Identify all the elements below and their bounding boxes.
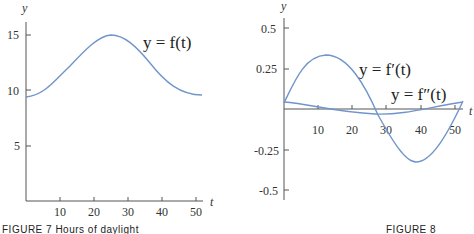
right-y-axis-label: y	[280, 0, 287, 13]
left-xtick-50: 50	[190, 205, 202, 219]
left-chart: y t 15 10 5 10 20 30 40 50 y = f(t) FIGU…	[2, 1, 214, 234]
curve-f-prime-label: y = f′(t)	[359, 60, 411, 79]
right-ytick-neg0.25: -0.25	[254, 144, 279, 158]
right-xtick-20: 20	[346, 123, 358, 137]
left-ytick-10: 10	[7, 84, 19, 98]
curve-f-label: y = f(t)	[143, 33, 191, 52]
right-ytick-neg0.5: -0.5	[259, 184, 278, 198]
figure-canvas: y t 15 10 5 10 20 30 40 50 y = f(t) FIGU…	[0, 0, 474, 234]
right-x-axis-label: t	[469, 104, 473, 118]
right-ytick-0.25: 0.25	[256, 62, 277, 76]
left-caption: FIGURE 7 Hours of daylight	[2, 224, 139, 234]
left-y-axis-label: y	[21, 1, 28, 15]
right-xtick-10: 10	[312, 123, 324, 137]
left-ytick-5: 5	[14, 139, 20, 153]
left-x-axis-label: t	[210, 195, 214, 209]
left-ytick-15: 15	[7, 28, 19, 42]
left-xtick-10: 10	[54, 205, 66, 219]
left-xtick-30: 30	[122, 205, 134, 219]
left-xtick-20: 20	[88, 205, 100, 219]
left-xtick-40: 40	[156, 205, 168, 219]
right-ytick-0.5: 0.5	[261, 22, 276, 36]
right-xtick-40: 40	[415, 123, 427, 137]
curve-f-double-prime-label: y = f″(t)	[391, 85, 446, 104]
right-caption: FIGURE 8	[386, 224, 436, 234]
right-chart: y t 0.5 0.25 -0.25 -0.5 10 20 30 40 50 y…	[254, 0, 473, 234]
